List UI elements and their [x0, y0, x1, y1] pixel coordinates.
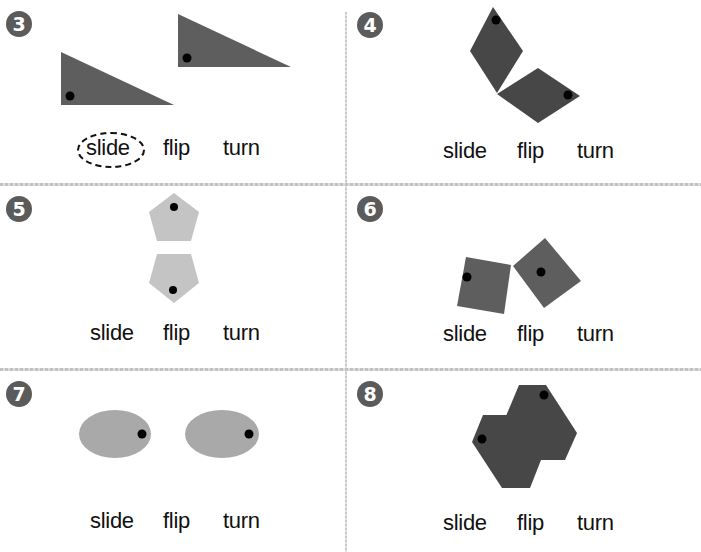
- problem-7: 7 slide flip turn: [0, 371, 345, 552]
- dot-marker: [170, 203, 178, 211]
- option-flip[interactable]: flip: [163, 135, 190, 161]
- triangle-moved: [178, 14, 291, 67]
- dot-marker: [478, 435, 487, 444]
- dot-marker: [463, 273, 472, 282]
- square-original: [457, 257, 511, 314]
- pentagon-original: [149, 193, 199, 241]
- dot-marker: [138, 430, 147, 439]
- square-turned: [513, 238, 581, 308]
- option-turn[interactable]: turn: [223, 508, 260, 534]
- dot-marker: [540, 391, 549, 400]
- triangle-original: [61, 52, 174, 105]
- dot-marker: [169, 286, 177, 294]
- option-slide[interactable]: slide: [86, 135, 130, 161]
- pentagon-flipped: [149, 254, 199, 303]
- option-flip[interactable]: flip: [163, 320, 190, 346]
- option-flip[interactable]: flip: [163, 508, 190, 534]
- option-slide[interactable]: slide: [90, 508, 134, 534]
- dot-marker: [245, 430, 254, 439]
- dot-marker: [183, 54, 192, 63]
- dot-marker: [492, 16, 501, 25]
- option-turn[interactable]: turn: [223, 320, 260, 346]
- problem-8: 8 slide flip turn: [347, 371, 701, 552]
- problem-6: 6 slide flip turn: [347, 186, 701, 368]
- option-slide[interactable]: slide: [443, 321, 487, 347]
- dot-marker: [66, 92, 75, 101]
- option-flip[interactable]: flip: [517, 321, 544, 347]
- option-flip[interactable]: flip: [517, 510, 544, 536]
- option-slide[interactable]: slide: [90, 320, 134, 346]
- option-slide[interactable]: slide: [443, 510, 487, 536]
- option-turn[interactable]: turn: [223, 135, 260, 161]
- option-turn[interactable]: turn: [577, 321, 614, 347]
- problem-4: 4 slide flip turn: [347, 0, 701, 183]
- dot-marker: [564, 91, 573, 100]
- option-turn[interactable]: turn: [577, 138, 614, 164]
- problem-5: 5 slide flip turn: [0, 186, 345, 368]
- option-slide[interactable]: slide: [443, 138, 487, 164]
- option-flip[interactable]: flip: [517, 138, 544, 164]
- dot-marker: [537, 268, 546, 277]
- problem-3: 3 slide flip turn: [0, 0, 345, 183]
- option-turn[interactable]: turn: [577, 510, 614, 536]
